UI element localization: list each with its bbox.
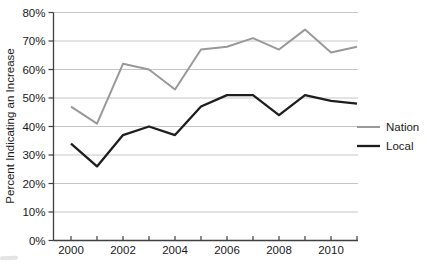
y-tick-label-0: 0% <box>29 235 46 247</box>
series-line-local <box>71 95 357 166</box>
y-tick-label-30: 30% <box>22 149 45 161</box>
y-tick-label-20: 20% <box>22 178 45 190</box>
x-tick-label-2008: 2008 <box>266 244 292 256</box>
y-tick-label-50: 50% <box>22 92 45 104</box>
legend-label-local: Local <box>386 140 414 152</box>
scan-artifact-smudge <box>0 256 18 261</box>
legend-label-nation: Nation <box>386 121 419 133</box>
y-tick-label-40: 40% <box>22 121 45 133</box>
x-tick-label-2006: 2006 <box>214 244 240 256</box>
chart-canvas: 0%10%20%30%40%50%60%70%80% 2000200220042… <box>0 0 427 264</box>
y-tick-label-10: 10% <box>22 206 45 218</box>
x-tick-label-2002: 2002 <box>110 244 136 256</box>
x-tick-label-2010: 2010 <box>318 244 344 256</box>
y-axis-title: Percent Indicating an Increase <box>4 48 16 203</box>
y-tick-label-70: 70% <box>22 35 45 47</box>
line-chart-figure: 0%10%20%30%40%50%60%70%80% 2000200220042… <box>0 0 427 264</box>
y-tick-label-80: 80% <box>22 7 45 19</box>
gridlines-group <box>54 13 359 213</box>
series-line-nation <box>71 30 357 124</box>
y-axis-ticks-group: 0%10%20%30%40%50%60%70%80% <box>22 7 53 247</box>
x-tick-label-2000: 2000 <box>58 244 84 256</box>
x-axis-ticks-group: 200020022004200620082010 <box>58 236 357 256</box>
x-tick-label-2004: 2004 <box>162 244 188 256</box>
y-tick-label-60: 60% <box>22 64 45 76</box>
legend: Nation Local <box>357 121 419 152</box>
